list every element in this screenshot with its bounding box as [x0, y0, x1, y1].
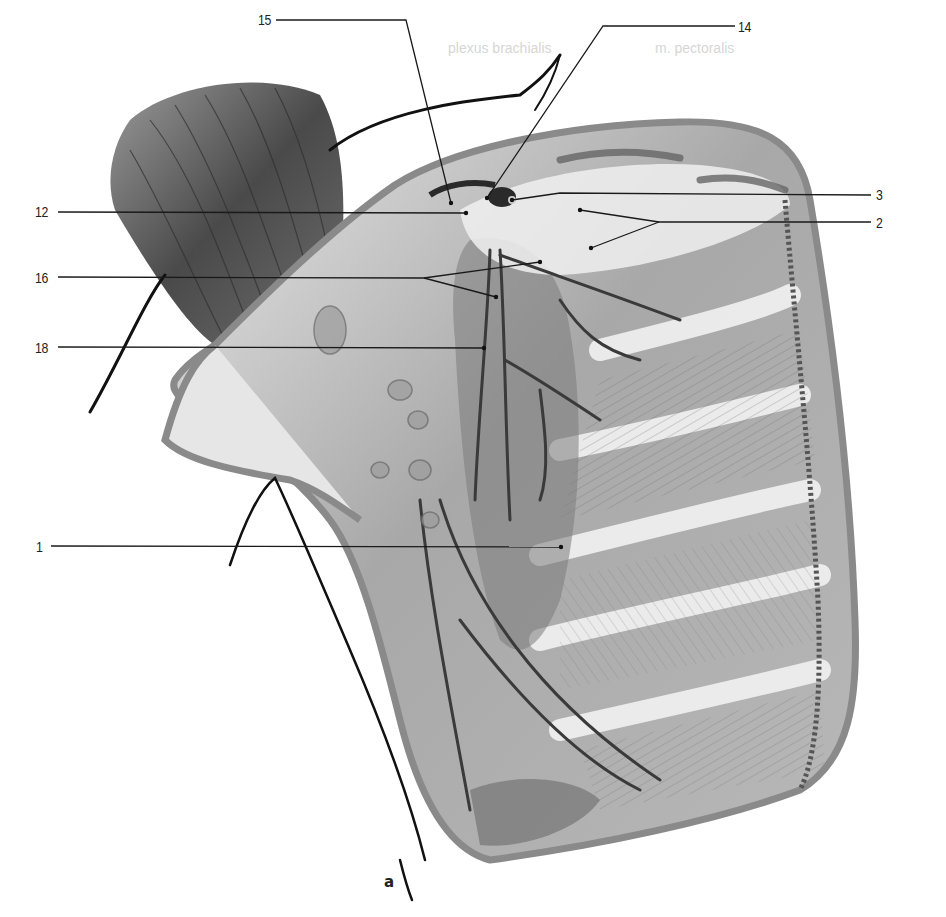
label-3: 3	[876, 187, 882, 202]
ghost-text-right: m. pectoralis	[655, 40, 734, 56]
label-14: 14	[738, 19, 751, 34]
label-18: 18	[35, 340, 48, 355]
label-12: 12	[35, 204, 48, 219]
label-2: 2	[876, 215, 882, 230]
panel-letter: a	[384, 873, 394, 891]
anatomy-figure: plexus brachialis m. pectoralis 15 14 12…	[0, 0, 946, 917]
ghost-text-left: plexus brachialis	[448, 40, 552, 56]
label-15: 15	[258, 12, 271, 27]
label-1: 1	[36, 539, 42, 554]
label-16: 16	[35, 270, 48, 285]
illustration	[0, 0, 946, 917]
